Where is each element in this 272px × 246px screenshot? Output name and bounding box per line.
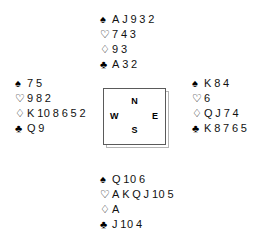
- card-rank: A: [112, 58, 120, 70]
- heart-icon: ♡: [100, 27, 112, 42]
- card-rank: 6: [139, 173, 146, 185]
- hand-south-diamonds-cards: A: [112, 202, 120, 217]
- heart-icon: ♡: [15, 91, 27, 106]
- card-rank: K: [204, 122, 212, 134]
- card-rank: 4: [223, 77, 230, 89]
- card-rank: 3: [121, 43, 128, 55]
- club-icon: ♣: [100, 57, 112, 72]
- hand-east-spades-row: ♠ K84: [192, 76, 248, 91]
- card-rank: 4: [233, 107, 240, 119]
- card-rank: 6: [204, 92, 211, 104]
- compass-label-south: S: [104, 126, 165, 135]
- card-rank: 9: [130, 13, 137, 25]
- hand-south-diamonds-row: ♢ A: [100, 202, 174, 217]
- hand-west-hearts-cards: 982: [27, 91, 52, 106]
- hand-north-diamonds-cards: 93: [112, 42, 128, 57]
- card-rank: J: [112, 218, 118, 230]
- hand-north-hearts-cards: 743: [112, 27, 137, 42]
- card-rank: 4: [136, 218, 143, 230]
- hand-east-clubs-cards: K8765: [204, 121, 248, 136]
- card-rank: 9: [27, 92, 34, 104]
- card-rank: A: [112, 13, 120, 25]
- card-rank: 10: [123, 173, 136, 185]
- hand-south-clubs-cards: J104: [112, 217, 143, 232]
- card-rank: 10: [152, 188, 165, 200]
- hand-south: ♠ Q106 ♡ AKQJ105 ♢ A ♣ J104: [100, 172, 174, 232]
- hand-north-diamonds-row: ♢ 93: [100, 42, 155, 57]
- card-rank: 9: [112, 43, 119, 55]
- card-rank: 2: [45, 92, 52, 104]
- card-rank: K: [204, 77, 212, 89]
- card-rank: 10: [120, 218, 133, 230]
- card-rank: 9: [38, 122, 45, 134]
- card-rank: 8: [36, 92, 43, 104]
- hand-east-clubs-row: ♣ K8765: [192, 121, 248, 136]
- heart-icon: ♡: [100, 187, 112, 202]
- hand-south-hearts-cards: AKQJ105: [112, 187, 174, 202]
- card-rank: J: [215, 107, 221, 119]
- card-rank: 5: [71, 107, 78, 119]
- card-rank: J: [122, 13, 128, 25]
- card-rank: 7: [27, 77, 34, 89]
- compass-label-west: W: [110, 112, 119, 121]
- hand-west-clubs-row: ♣ Q9: [15, 121, 86, 136]
- hand-east: ♠ K84 ♡ 6 ♢ QJ74 ♣ K8765: [192, 76, 248, 136]
- card-rank: 2: [131, 58, 138, 70]
- card-rank: K: [122, 188, 130, 200]
- hand-west-clubs-cards: Q9: [27, 121, 45, 136]
- card-rank: 6: [232, 122, 239, 134]
- card-rank: Q: [132, 188, 141, 200]
- card-rank: K: [27, 107, 35, 119]
- hand-east-hearts-cards: 6: [204, 91, 211, 106]
- hand-north-spades-row: ♠ AJ932: [100, 12, 155, 27]
- card-rank: Q: [204, 107, 213, 119]
- compass-label-east: E: [152, 112, 158, 121]
- hand-north-clubs-cards: A32: [112, 57, 138, 72]
- card-rank: J: [144, 188, 150, 200]
- card-rank: 5: [36, 77, 43, 89]
- card-rank: 5: [241, 122, 248, 134]
- card-rank: 2: [79, 107, 86, 119]
- bridge-deal-diagram: ♠ AJ932 ♡ 743 ♢ 93 ♣ A32 ♠ 75 ♡ 982 ♢ K1…: [0, 0, 272, 246]
- card-rank: 6: [62, 107, 69, 119]
- card-rank: 8: [214, 122, 221, 134]
- diamond-icon: ♢: [100, 42, 112, 57]
- diamond-icon: ♢: [100, 202, 112, 217]
- diamond-icon: ♢: [15, 106, 27, 121]
- hand-south-hearts-row: ♡ AKQJ105: [100, 187, 174, 202]
- hand-east-hearts-row: ♡ 6: [192, 91, 248, 106]
- card-rank: 7: [224, 107, 231, 119]
- card-rank: Q: [27, 122, 36, 134]
- hand-west-spades-row: ♠ 75: [15, 76, 86, 91]
- diamond-icon: ♢: [192, 106, 204, 121]
- hand-north: ♠ AJ932 ♡ 743 ♢ 93 ♣ A32: [100, 12, 155, 72]
- card-rank: 3: [130, 28, 137, 40]
- card-rank: Q: [112, 173, 121, 185]
- hand-north-hearts-row: ♡ 743: [100, 27, 155, 42]
- card-rank: 3: [122, 58, 129, 70]
- card-rank: 7: [112, 28, 119, 40]
- hand-south-spades-cards: Q106: [112, 172, 146, 187]
- heart-icon: ♡: [192, 91, 204, 106]
- hand-north-spades-cards: AJ932: [112, 12, 155, 27]
- hand-west-diamonds-cards: K108652: [27, 106, 86, 121]
- spade-icon: ♠: [192, 76, 204, 91]
- spade-icon: ♠: [100, 12, 112, 27]
- hand-west: ♠ 75 ♡ 982 ♢ K108652 ♣ Q9: [15, 76, 86, 136]
- compass-box: N W E S: [103, 88, 167, 146]
- hand-west-diamonds-row: ♢ K108652: [15, 106, 86, 121]
- card-rank: 2: [148, 13, 155, 25]
- spade-icon: ♠: [15, 76, 27, 91]
- hand-north-clubs-row: ♣ A32: [100, 57, 155, 72]
- club-icon: ♣: [100, 217, 112, 232]
- card-rank: 5: [168, 188, 175, 200]
- card-rank: 3: [139, 13, 146, 25]
- hand-east-diamonds-cards: QJ74: [204, 106, 239, 121]
- hand-south-clubs-row: ♣ J104: [100, 217, 174, 232]
- hand-west-spades-cards: 75: [27, 76, 43, 91]
- card-rank: A: [112, 188, 120, 200]
- compass-label-north: N: [104, 97, 165, 106]
- card-rank: 8: [53, 107, 60, 119]
- hand-south-spades-row: ♠ Q106: [100, 172, 174, 187]
- compass-box-face: N W E S: [103, 88, 166, 145]
